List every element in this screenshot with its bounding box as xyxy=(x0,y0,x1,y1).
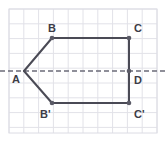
edge-A-B xyxy=(24,38,52,71)
geometry-figure: ABCDB'C' xyxy=(0,0,165,142)
vertex-label-Cp: C' xyxy=(134,109,145,120)
vertex-label-Bp: B' xyxy=(40,109,51,120)
vertex-label-A: A xyxy=(12,74,20,85)
vertex-dot-B xyxy=(50,36,55,41)
vertex-label-D: D xyxy=(134,75,142,86)
vertex-dot-Bp xyxy=(50,101,55,106)
vertex-dot-C xyxy=(127,36,132,41)
vertex-label-B: B xyxy=(48,23,56,34)
vertex-label-C: C xyxy=(134,23,142,34)
vertex-dot-D xyxy=(127,69,132,74)
vertex-dot-Cp xyxy=(127,101,132,106)
